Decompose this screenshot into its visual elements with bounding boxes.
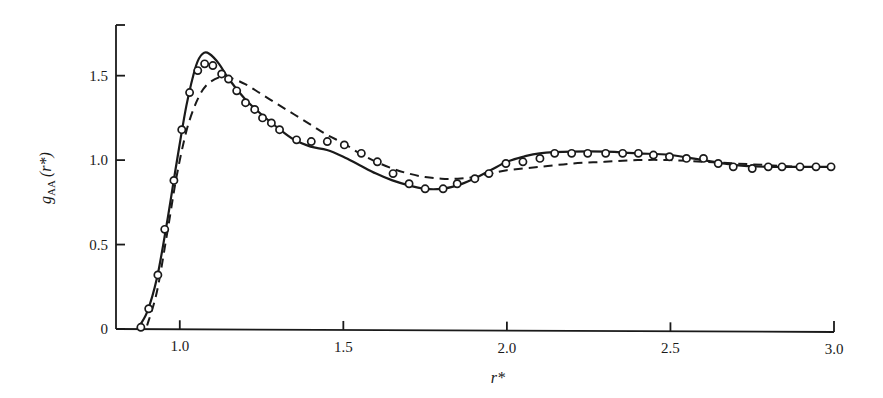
- data-point-marker: [194, 67, 201, 74]
- x-ticks: 1.01.52.02.53.0: [170, 320, 843, 357]
- data-point-marker: [145, 305, 152, 312]
- data-point-marker: [827, 163, 834, 170]
- x-axis-line: [116, 329, 834, 332]
- data-point-marker: [454, 180, 461, 187]
- data-point-marker: [374, 158, 381, 165]
- data-point-marker: [568, 150, 575, 157]
- data-point-marker: [471, 175, 478, 182]
- series-layer: [137, 52, 834, 331]
- y-axis-title-text: gAA(r*): [37, 152, 57, 204]
- x-tick-label: 2.0: [498, 340, 517, 356]
- y-tick-label: 1.5: [89, 68, 108, 84]
- data-point-marker: [635, 150, 642, 157]
- data-point-marker: [308, 138, 315, 145]
- series-open-circles: [137, 60, 834, 331]
- data-point-marker: [730, 163, 737, 170]
- x-tick-label: 3.0: [825, 341, 844, 357]
- x-axis-title: r*: [491, 369, 505, 386]
- data-point-marker: [201, 60, 208, 67]
- data-point-marker: [650, 151, 657, 158]
- data-point-marker: [602, 150, 609, 157]
- data-point-marker: [666, 153, 673, 160]
- y-tick-label: 1.0: [89, 152, 108, 168]
- data-point-marker: [619, 150, 626, 157]
- data-point-marker: [715, 160, 722, 167]
- data-point-marker: [209, 62, 216, 69]
- data-point-marker: [536, 155, 543, 162]
- data-point-marker: [551, 150, 558, 157]
- data-point-marker: [796, 163, 803, 170]
- series-dashed-curve: [147, 76, 834, 325]
- data-point-marker: [186, 89, 193, 96]
- x-tick-label: 2.5: [661, 340, 680, 356]
- data-point-marker: [324, 138, 331, 145]
- data-point-marker: [242, 99, 249, 106]
- data-point-marker: [137, 324, 144, 331]
- data-point-marker: [268, 119, 275, 126]
- data-point-marker: [519, 158, 526, 165]
- data-point-marker: [700, 155, 707, 162]
- chart-canvas: 00.51.01.5 1.01.52.02.53.0 r* gAA(r*): [0, 0, 883, 398]
- data-point-marker: [765, 163, 772, 170]
- data-point-marker: [341, 141, 348, 148]
- data-point-marker: [584, 150, 591, 157]
- data-point-marker: [485, 170, 492, 177]
- data-point-marker: [170, 177, 177, 184]
- data-point-marker: [683, 155, 690, 162]
- y-ticks: 00.51.01.5: [89, 68, 125, 337]
- data-point-marker: [389, 170, 396, 177]
- series-solid-curve: [137, 52, 834, 329]
- data-point-marker: [778, 163, 785, 170]
- y-tick-label: 0.5: [89, 237, 108, 253]
- data-point-marker: [749, 165, 756, 172]
- y-tick-label: 0: [101, 321, 109, 337]
- x-tick-label: 1.0: [170, 338, 189, 354]
- data-point-marker: [233, 87, 240, 94]
- data-point-marker: [358, 150, 365, 157]
- data-point-marker: [161, 226, 168, 233]
- data-point-marker: [812, 163, 819, 170]
- axes: 00.51.01.5 1.01.52.02.53.0: [89, 25, 843, 357]
- data-point-marker: [154, 271, 161, 278]
- data-point-marker: [218, 70, 225, 77]
- data-point-marker: [276, 126, 283, 133]
- data-point-marker: [293, 136, 300, 143]
- data-point-marker: [259, 114, 266, 121]
- data-point-marker: [178, 126, 185, 133]
- data-point-marker: [405, 180, 412, 187]
- data-point-marker: [502, 160, 509, 167]
- x-tick-label: 1.5: [334, 339, 353, 355]
- data-point-marker: [440, 185, 447, 192]
- data-point-marker: [225, 75, 232, 82]
- chart: 00.51.01.5 1.01.52.02.53.0 r* gAA(r*): [0, 0, 883, 398]
- data-point-marker: [251, 106, 258, 113]
- y-axis-title: gAA(r*): [37, 152, 57, 204]
- data-point-marker: [422, 185, 429, 192]
